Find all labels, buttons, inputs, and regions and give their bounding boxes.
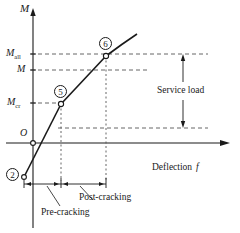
marker-node-6 — [103, 53, 108, 58]
y-tick-label-m-cr: Mcr — [7, 97, 20, 110]
marker-node-5 — [58, 101, 63, 106]
curve-segment-post-cracking — [61, 56, 106, 104]
dimension-arrow-right-1 — [54, 182, 59, 186]
dimension-arrow-left-1 — [26, 182, 31, 186]
dimension-arrow-left-2 — [63, 182, 68, 186]
curve-group — [24, 34, 137, 177]
service-load-label: Service load — [157, 86, 204, 96]
curve-segment-pre-cracking — [24, 104, 61, 177]
x-axis-label: Deflectionf — [152, 163, 199, 173]
y-tick-label-m-cr-sub: cr — [15, 102, 20, 109]
y-axis-arrowhead — [30, 8, 35, 16]
y-tick-label-m: M — [17, 64, 25, 77]
marker-node-2 — [22, 175, 27, 180]
service-load-arrowhead-up — [181, 54, 185, 61]
leader-line-pre-cracking — [47, 186, 60, 206]
node-number-6: 6 — [99, 37, 112, 50]
x-axis-arrowhead — [220, 140, 230, 146]
y-axis-label: M — [20, 3, 29, 14]
origin-label: O — [20, 128, 27, 138]
y-tick-label-m-all: Mall — [6, 48, 21, 61]
marker-origin — [31, 141, 36, 146]
service-load-arrowhead-down — [181, 121, 185, 128]
node-number-2: 2 — [6, 168, 19, 181]
post-cracking-label: Post-cracking — [79, 193, 131, 203]
markers-group — [22, 53, 109, 179]
y-tick-label-m-main: M — [17, 63, 25, 74]
x-axis-label-symbol: f — [196, 162, 199, 172]
moment-deflection-diagram: M Mall M Mcr O Deflectionf 2 5 6 Service… — [0, 0, 240, 233]
x-axis-label-text: Deflection — [152, 162, 192, 172]
pre-cracking-label: Pre-cracking — [41, 208, 90, 218]
projection-lines-group — [61, 56, 106, 181]
y-tick-label-m-all-sub: all — [14, 53, 21, 60]
node-number-5: 5 — [54, 85, 67, 98]
dimension-arrow-right-2 — [99, 182, 104, 186]
